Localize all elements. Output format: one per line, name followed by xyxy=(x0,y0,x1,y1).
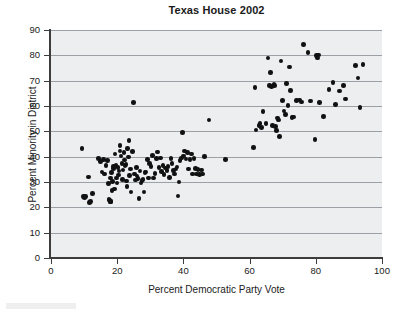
data-point xyxy=(177,180,182,185)
data-point xyxy=(124,162,129,167)
data-point xyxy=(287,65,292,70)
data-point xyxy=(167,175,172,180)
data-point xyxy=(165,168,170,173)
data-point xyxy=(130,149,135,154)
data-point xyxy=(104,163,109,168)
data-point xyxy=(361,62,366,67)
data-point xyxy=(337,89,342,94)
y-axis-tick xyxy=(44,30,50,31)
data-point xyxy=(272,83,277,88)
data-point xyxy=(109,170,114,175)
x-axis-tick xyxy=(183,259,184,264)
data-point xyxy=(200,172,205,177)
x-axis-tick xyxy=(382,259,383,264)
y-axis-tick xyxy=(44,81,50,82)
x-axis-tick xyxy=(51,259,52,264)
data-point xyxy=(142,190,147,195)
data-point xyxy=(321,114,326,119)
data-point xyxy=(162,172,167,177)
data-point xyxy=(308,99,313,104)
data-point xyxy=(306,50,311,55)
data-point xyxy=(127,138,132,143)
x-axis-tick-label: 80 xyxy=(301,265,331,276)
data-point xyxy=(276,118,281,123)
data-point xyxy=(333,102,338,107)
data-point xyxy=(313,137,318,142)
data-point xyxy=(301,42,306,47)
x-axis-label: Percent Democratic Party Vote xyxy=(51,284,382,295)
x-axis-tick xyxy=(316,259,317,264)
data-point xyxy=(180,130,185,135)
data-point xyxy=(141,177,146,182)
data-point xyxy=(353,63,358,68)
data-point xyxy=(274,128,279,133)
data-point xyxy=(115,181,120,186)
data-point xyxy=(327,87,332,92)
data-point xyxy=(186,167,191,172)
data-point xyxy=(261,109,266,114)
data-point xyxy=(286,103,291,108)
y-axis-tick xyxy=(44,207,50,208)
data-point xyxy=(80,146,85,151)
data-point xyxy=(122,150,127,155)
data-point xyxy=(284,81,289,86)
data-point xyxy=(128,167,133,172)
data-point xyxy=(202,154,207,159)
y-axis-tick xyxy=(44,106,50,107)
data-point xyxy=(155,150,160,155)
gridline xyxy=(51,182,382,183)
x-axis-tick xyxy=(250,259,251,264)
data-point xyxy=(88,199,93,204)
data-point xyxy=(153,171,158,176)
data-point xyxy=(151,176,156,181)
data-point xyxy=(341,83,346,88)
x-axis-tick xyxy=(117,259,118,264)
data-point xyxy=(146,176,151,181)
data-point xyxy=(131,100,136,105)
y-axis-tick xyxy=(44,131,50,132)
chart-title: Texas House 2002 xyxy=(51,4,382,16)
data-point xyxy=(259,125,264,130)
data-point xyxy=(277,134,282,139)
data-point xyxy=(109,199,114,204)
data-point xyxy=(124,179,129,184)
data-point xyxy=(125,184,130,189)
data-point xyxy=(129,190,134,195)
data-point xyxy=(223,157,228,162)
data-point xyxy=(176,194,181,199)
x-axis-tick-label: 40 xyxy=(168,265,198,276)
data-point xyxy=(172,172,177,177)
data-point xyxy=(105,158,110,163)
data-point xyxy=(138,169,143,174)
data-point xyxy=(251,145,256,150)
data-point xyxy=(121,168,126,173)
data-point xyxy=(86,175,91,180)
data-point xyxy=(264,121,269,126)
data-point xyxy=(137,196,142,201)
x-axis-tick-label: 60 xyxy=(235,265,265,276)
data-point xyxy=(280,98,285,103)
y-axis-line xyxy=(49,29,51,259)
gridline xyxy=(51,30,382,31)
gridline xyxy=(51,131,382,132)
x-axis-tick-label: 20 xyxy=(102,265,132,276)
data-point xyxy=(331,80,336,85)
gridline xyxy=(51,55,382,56)
page-artifact xyxy=(6,303,76,309)
data-point xyxy=(358,105,363,110)
data-point xyxy=(83,194,88,199)
y-axis-tick-label: 90 xyxy=(16,24,40,35)
x-axis-line xyxy=(49,257,383,259)
data-point xyxy=(283,112,288,117)
data-point xyxy=(175,165,180,170)
y-axis-tick xyxy=(44,258,50,259)
data-point xyxy=(90,191,95,196)
y-axis-tick xyxy=(44,55,50,56)
data-point xyxy=(266,56,271,61)
data-point xyxy=(192,156,197,161)
data-point xyxy=(149,164,154,169)
data-point xyxy=(299,100,304,105)
y-axis-label: Percent Minority in District xyxy=(27,45,38,245)
y-axis-tick xyxy=(44,182,50,183)
data-point xyxy=(268,70,273,75)
